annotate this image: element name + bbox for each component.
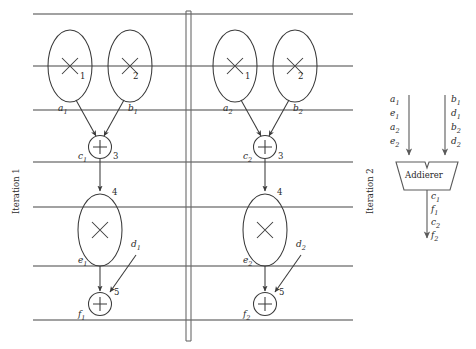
adder-left-input-2: e1 xyxy=(390,109,399,120)
adder-unit-label: Addierer xyxy=(405,171,443,180)
adder-right-input-1: b1 xyxy=(451,95,461,106)
adder-output-4-sub: 2 xyxy=(434,235,438,243)
node-m5-number: 5 xyxy=(279,288,284,297)
adder-left-input-4-sub: 2 xyxy=(395,141,399,149)
edge-label-c1-sub: 1 xyxy=(83,156,87,164)
node-m3-add-glyph xyxy=(258,140,272,154)
node-3-number: 3 xyxy=(113,152,118,161)
adder-output-1: c1 xyxy=(431,192,440,203)
edge-label-c2-sub: 2 xyxy=(248,156,252,164)
edge-label-e2: e2 xyxy=(243,256,252,267)
adder-left-input-3-sub: 2 xyxy=(395,127,399,135)
node-5-number: 5 xyxy=(114,288,119,297)
adder-right-input-4: d2 xyxy=(451,137,461,148)
edge-label-b2: b2 xyxy=(293,104,303,115)
adder-unit-graphics xyxy=(396,95,458,238)
edge-b2 xyxy=(269,100,289,136)
iteration-1-title: Iteration 1 xyxy=(12,168,21,214)
adder-output-2: f1 xyxy=(431,205,438,216)
edge-label-a1-sub: 1 xyxy=(63,108,67,116)
adder-output-4: f2 xyxy=(431,231,438,242)
node-4-number: 4 xyxy=(112,188,117,197)
edge-label-d1-sub: 1 xyxy=(137,244,141,252)
edge-label-b1: b1 xyxy=(128,104,138,115)
edge-label-c1: c1 xyxy=(78,152,87,163)
time-step-gridlines xyxy=(33,14,353,320)
adder-right-input-4-sub: 2 xyxy=(457,141,461,149)
node-m5-add-glyph xyxy=(258,297,272,311)
edge-label-e1-sub: 1 xyxy=(83,260,87,268)
edge-label-f1-sub: 1 xyxy=(81,314,85,322)
adder-output-3: c2 xyxy=(431,218,440,229)
node-4-multiply-glyph xyxy=(92,222,108,238)
adder-left-input-3: a2 xyxy=(390,123,400,134)
edge-label-d2-sub: 2 xyxy=(302,244,306,252)
iteration-2-title: Iteration 2 xyxy=(366,168,375,214)
node-m1-number: 1 xyxy=(245,72,250,81)
edge-label-f2: f2 xyxy=(243,310,250,321)
edge-label-f1: f1 xyxy=(78,310,85,321)
node-m2-number: 2 xyxy=(298,72,303,81)
edge-label-a1: a1 xyxy=(58,104,68,115)
node-2-number: 2 xyxy=(133,72,138,81)
edge-label-e1: e1 xyxy=(78,256,87,267)
adder-right-input-3-sub: 2 xyxy=(457,127,461,135)
adder-left-input-2-sub: 1 xyxy=(395,113,399,121)
edge-b1 xyxy=(104,100,124,136)
node-m4-multiply-glyph xyxy=(257,222,273,238)
node-5-add-glyph xyxy=(93,297,107,311)
edge-a1 xyxy=(76,100,96,136)
adder-output-2-sub: 1 xyxy=(434,209,438,217)
adder-right-input-3: b2 xyxy=(451,123,461,134)
edge-label-a2-sub: 2 xyxy=(228,108,232,116)
adder-left-input-1: a1 xyxy=(390,95,400,106)
edge-label-b2-sub: 2 xyxy=(299,108,303,116)
diagram-canvas: Iteration 1 Iteration 2 1 2 3 4 5 a1 b1 … xyxy=(0,0,476,349)
node-1-number: 1 xyxy=(80,72,85,81)
adder-left-input-1-sub: 1 xyxy=(395,99,399,107)
edge-label-d1: d1 xyxy=(131,240,141,251)
adder-right-input-2-sub: 1 xyxy=(457,113,461,121)
adder-output-1-sub: 1 xyxy=(436,196,440,204)
edge-a2 xyxy=(241,100,261,136)
adder-right-input-1-sub: 1 xyxy=(457,99,461,107)
edge-label-a2: a2 xyxy=(223,104,233,115)
edge-label-f2-sub: 2 xyxy=(246,314,250,322)
node-3-add-glyph xyxy=(93,140,107,154)
node-m3-number: 3 xyxy=(278,152,283,161)
edge-label-c2: c2 xyxy=(243,152,252,163)
adder-output-3-sub: 2 xyxy=(436,222,440,230)
adder-left-input-4: e2 xyxy=(390,137,399,148)
edge-label-d2: d2 xyxy=(296,240,306,251)
iteration-divider xyxy=(186,11,191,341)
node-m4-number: 4 xyxy=(277,188,282,197)
edge-label-b1-sub: 1 xyxy=(134,108,138,116)
adder-right-input-2: d1 xyxy=(451,109,461,120)
edge-label-e2-sub: 2 xyxy=(248,260,252,268)
